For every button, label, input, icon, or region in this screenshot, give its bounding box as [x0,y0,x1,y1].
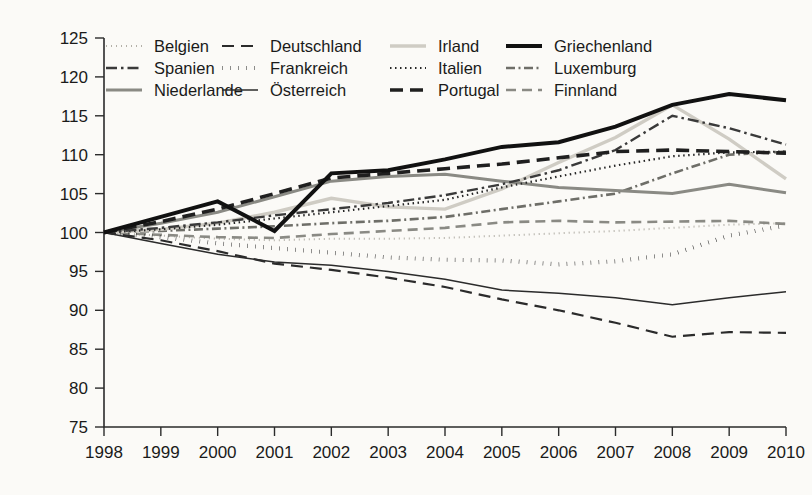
legend-label: Finnland [554,81,617,99]
series-group [104,94,786,337]
x-tick-label: 2001 [256,443,294,462]
legend-item-griechenland[interactable]: Griechenland [506,37,652,55]
y-tick-label: 100 [60,224,88,243]
legend-item-finnland[interactable]: Finnland [506,81,617,99]
x-tick-label: 2003 [369,443,407,462]
y-tick-label: 105 [60,185,88,204]
x-tick-label: 2006 [540,443,578,462]
legend-label: Portugal [438,81,499,99]
line-chart-figure: 7580859095100105110115120125199819992000… [0,0,812,495]
legend-label: Frankreich [270,59,348,77]
legend-item-deutschland[interactable]: Deutschland [222,37,362,55]
legend-label: Italien [438,59,482,77]
y-tick-label: 90 [69,301,88,320]
y-tick-label: 80 [69,379,88,398]
chart-legend: BelgienSpanienNiederlandeDeutschlandFran… [106,37,652,99]
y-tick-label: 95 [69,262,88,281]
legend-label: Deutschland [270,37,362,55]
y-tick-label: 110 [61,146,88,165]
legend-item-belgien[interactable]: Belgien [106,37,209,55]
y-tick-label: 75 [69,418,88,437]
x-tick-label: 2002 [312,443,350,462]
legend-label: Luxemburg [554,59,637,77]
x-tick-label: 2004 [426,443,464,462]
legend-item-irland[interactable]: Irland [390,37,479,55]
legend-label: Belgien [154,37,209,55]
x-tick-label: 2007 [597,443,635,462]
legend-label: Irland [438,37,479,55]
y-tick-label: 125 [60,29,88,48]
y-tick-label: 85 [69,340,88,359]
legend-label: Österreich [270,81,346,99]
y-tick-label: 115 [61,107,88,126]
legend-label: Spanien [154,59,215,77]
series-line-oesterreich [104,233,786,305]
series-line-frankreich [104,226,786,265]
legend-item-frankreich[interactable]: Frankreich [222,59,348,77]
legend-item-italien[interactable]: Italien [390,59,482,77]
x-tick-label: 2005 [483,443,521,462]
x-tick-label: 2000 [199,443,237,462]
y-tick-label: 120 [60,68,88,87]
x-tick-label: 1999 [142,443,180,462]
x-tick-label: 2008 [653,443,691,462]
x-tick-label: 1998 [85,443,123,462]
x-tick-label: 2010 [767,443,805,462]
legend-item-spanien[interactable]: Spanien [106,59,215,77]
legend-item-portugal[interactable]: Portugal [390,81,499,99]
chart-canvas: 7580859095100105110115120125199819992000… [0,0,812,495]
series-line-deutschland [104,233,786,337]
x-tick-label: 2009 [710,443,748,462]
legend-label: Griechenland [554,37,652,55]
legend-item-luxemburg[interactable]: Luxemburg [506,59,637,77]
